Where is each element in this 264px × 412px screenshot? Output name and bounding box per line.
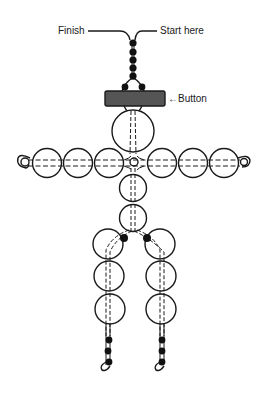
start-here-label: Start here — [160, 25, 204, 36]
chain-bead — [129, 56, 136, 63]
chain-bead — [139, 84, 146, 91]
arm-bead-left-3 — [33, 149, 62, 178]
left-leg — [93, 229, 132, 371]
chain-bead — [129, 64, 136, 71]
arm-bead-left-2 — [64, 149, 93, 178]
chain-bead — [129, 39, 136, 46]
head-bead — [112, 110, 154, 152]
hip-bead-right — [143, 234, 151, 242]
arm-bead-left-1 — [95, 149, 124, 178]
foot-bead — [106, 359, 113, 366]
foot-bead — [106, 337, 113, 344]
right-leg — [134, 229, 176, 371]
arm-bead-right-1 — [148, 149, 177, 178]
torso-bead-2 — [120, 205, 147, 232]
chain-bead — [129, 48, 136, 55]
arm-bead-right-3 — [210, 149, 239, 178]
button-label: ←Button — [168, 93, 207, 104]
finish-string — [88, 31, 130, 40]
foot-bead — [159, 337, 166, 344]
center-small-bead — [130, 158, 138, 166]
hip-bead-left — [120, 234, 128, 242]
chain-bead — [129, 72, 136, 79]
arm-bead-right-2 — [179, 149, 208, 178]
chain-bead — [122, 84, 129, 91]
foot-bead — [159, 359, 166, 366]
foot-bead — [159, 348, 166, 355]
torso-bead-1 — [120, 175, 147, 202]
bead-figure-diagram: Finish Start here ←Button — [0, 0, 264, 412]
torso — [120, 168, 147, 232]
arms — [18, 149, 250, 178]
finish-label: Finish — [58, 25, 85, 36]
button-bar — [105, 91, 165, 106]
start-string — [135, 31, 157, 40]
foot-bead — [105, 348, 112, 355]
